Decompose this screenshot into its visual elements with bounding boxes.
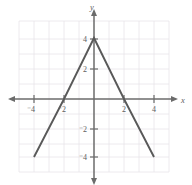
y-tick-label-pos2: 2 [83, 65, 87, 74]
y-axis [91, 9, 97, 185]
y-axis-arrow-down [91, 178, 97, 185]
x-tick-label-neg4: ⁻4 [27, 105, 35, 114]
x-tick-label-neg2: ⁻2 [58, 105, 66, 114]
x-axis-label: x [180, 95, 185, 105]
y-axis-label: y [89, 2, 94, 12]
x-tick-label-pos4: 4 [152, 105, 156, 114]
y-tick-label-neg2: ⁻2 [79, 125, 87, 134]
y-tick-label-neg4: ⁻4 [79, 153, 87, 162]
plot-svg: ⁻4 ⁻2 2 4 4 2 ⁻2 ⁻4 x y [0, 0, 192, 185]
coordinate-graph-figure: ⁻4 ⁻2 2 4 4 2 ⁻2 ⁻4 x y [0, 0, 192, 185]
y-tick-label-pos4: 4 [83, 35, 87, 44]
x-axis-arrow-left [8, 96, 15, 102]
x-axis-arrow-right [171, 96, 178, 102]
x-tick-label-pos2: 2 [122, 105, 126, 114]
